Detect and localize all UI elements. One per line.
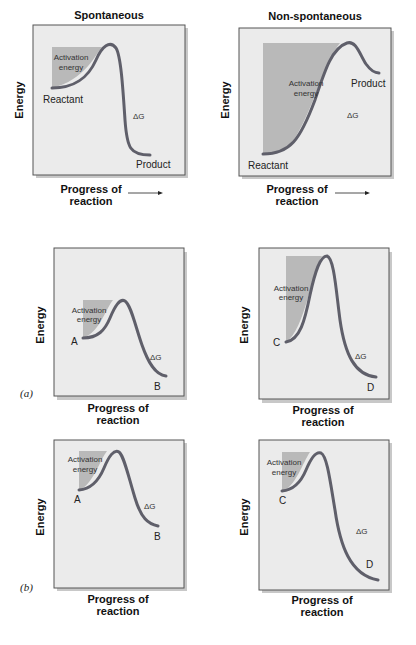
- panel-b-right: Activation energy C ΔG D Energy Progress…: [238, 440, 392, 618]
- x-axis-label-line2: reaction: [302, 416, 345, 428]
- activation-label-line1: Activation: [267, 458, 302, 467]
- panel-label-a: (a): [20, 387, 33, 400]
- panel-a-left: Activation energy A ΔG B Energy (a) Prog…: [20, 248, 187, 426]
- arrow-right-icon: [335, 191, 370, 195]
- panel-label-b: (b): [20, 581, 33, 594]
- activation-label-line1: Activation: [68, 455, 103, 464]
- y-axis-label: Energy: [238, 497, 250, 535]
- x-axis-label-line2: reaction: [70, 195, 113, 207]
- reactant-a-label: A: [74, 494, 81, 505]
- activation-label-line1: Activation: [274, 284, 309, 293]
- activation-label-line1: Activation: [54, 53, 89, 62]
- activation-label-line1: Activation: [72, 306, 107, 315]
- activation-label-line2: energy: [294, 89, 318, 98]
- x-axis-label-line1: Progress of: [292, 404, 353, 416]
- product-d-label: D: [366, 559, 373, 570]
- reactant-c-label: C: [273, 337, 280, 348]
- y-axis-label: Energy: [13, 80, 25, 118]
- reactant-c-label: C: [279, 495, 286, 506]
- delta-g-label: ΔG: [133, 112, 145, 121]
- delta-g-label: ΔG: [150, 353, 162, 362]
- x-axis-label-line2: reaction: [97, 414, 140, 426]
- x-axis-label-line1: Progress of: [291, 594, 352, 606]
- product-d-label: D: [367, 382, 374, 393]
- panel-title: Spontaneous: [74, 9, 144, 21]
- panel-spontaneous: Spontaneous Activation energy Reactant Δ…: [13, 9, 188, 207]
- x-axis-label-line1: Progress of: [87, 402, 148, 414]
- activation-label-line2: energy: [73, 465, 97, 474]
- y-axis-label: Energy: [238, 305, 250, 343]
- delta-g-label: ΔG: [356, 527, 368, 536]
- reactant-a-label: A: [71, 336, 78, 347]
- panel-b-left: Activation energy A ΔG B Energy (b) Prog…: [20, 440, 187, 617]
- y-axis-label: Energy: [219, 80, 231, 118]
- delta-g-label: ΔG: [355, 352, 367, 361]
- panel-non-spontaneous: Non-spontaneous Activation energy Produc…: [219, 10, 394, 207]
- activation-label-line1: Activation: [289, 79, 324, 88]
- x-axis-label-line1: Progress of: [60, 183, 121, 195]
- product-b-label: B: [154, 381, 161, 392]
- product-label: Product: [351, 78, 386, 89]
- activation-label-line2: energy: [77, 315, 101, 324]
- delta-g-label: ΔG: [144, 502, 156, 511]
- activation-label-line2: energy: [272, 468, 296, 477]
- panel-a-right: Activation energy C ΔG D Energy Progress…: [238, 248, 392, 428]
- reactant-label: Reactant: [248, 160, 288, 171]
- arrow-right-icon: [128, 191, 163, 195]
- delta-g-label: ΔG: [347, 111, 359, 120]
- product-label: Product: [136, 159, 171, 170]
- y-axis-label: Energy: [34, 497, 46, 535]
- x-axis-label-line2: reaction: [276, 195, 319, 207]
- product-b-label: B: [154, 531, 161, 542]
- plot-area: [54, 248, 184, 396]
- x-axis-label-line2: reaction: [301, 606, 344, 618]
- panel-title: Non-spontaneous: [268, 10, 362, 22]
- x-axis-label-line1: Progress of: [87, 593, 148, 605]
- activation-label-line2: energy: [59, 63, 83, 72]
- reactant-label: Reactant: [43, 94, 83, 105]
- activation-label-line2: energy: [279, 293, 303, 302]
- y-axis-label: Energy: [34, 305, 46, 343]
- x-axis-label-line2: reaction: [97, 605, 140, 617]
- x-axis-label-line1: Progress of: [266, 183, 327, 195]
